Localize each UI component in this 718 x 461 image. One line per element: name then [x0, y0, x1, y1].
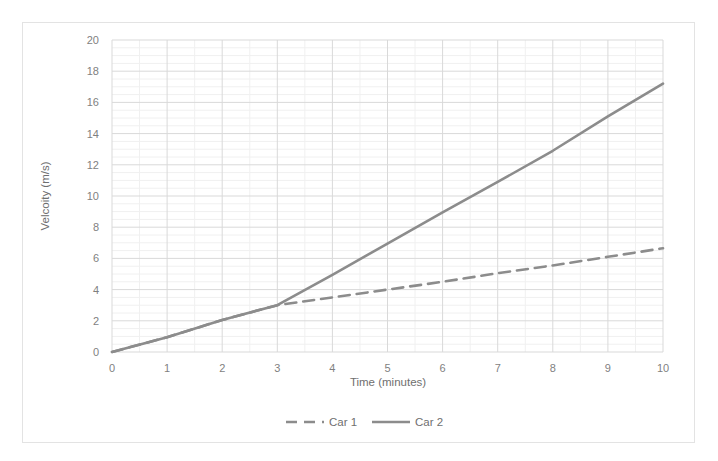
y-tick-label-0: 0 — [93, 346, 99, 358]
line-chart: 02468101214161820 012345678910 Velcoity … — [0, 0, 718, 461]
x-tick-label-5: 5 — [384, 362, 390, 374]
y-tick-label-2: 4 — [93, 284, 99, 296]
x-tick-label-4: 4 — [329, 362, 335, 374]
y-tick-label-4: 8 — [93, 221, 99, 233]
x-tick-label-3: 3 — [274, 362, 280, 374]
legend-label-car-2[interactable]: Car 2 — [415, 416, 443, 428]
x-tick-label-1: 1 — [164, 362, 170, 374]
y-tick-label-8: 16 — [87, 96, 99, 108]
y-tick-label-6: 12 — [87, 159, 99, 171]
x-tick-label-8: 8 — [550, 362, 556, 374]
x-tick-label-7: 7 — [495, 362, 501, 374]
y-tick-label-3: 6 — [93, 252, 99, 264]
y-axis-tick-labels: 02468101214161820 — [87, 34, 99, 358]
x-tick-label-0: 0 — [109, 362, 115, 374]
y-tick-label-5: 10 — [87, 190, 99, 202]
chart-legend: Car 1Car 2 — [286, 416, 443, 428]
legend-label-car-1[interactable]: Car 1 — [329, 416, 357, 428]
y-tick-label-1: 2 — [93, 315, 99, 327]
x-tick-label-6: 6 — [440, 362, 446, 374]
x-axis-tick-labels: 012345678910 — [109, 362, 669, 374]
y-tick-label-7: 14 — [87, 128, 99, 140]
chart-figure: 02468101214161820 012345678910 Velcoity … — [0, 0, 718, 461]
x-tick-label-9: 9 — [605, 362, 611, 374]
x-tick-label-10: 10 — [657, 362, 669, 374]
y-tick-label-10: 20 — [87, 34, 99, 46]
x-axis-title: Time (minutes) — [350, 376, 426, 388]
y-axis-title: Velcoity (m/s) — [39, 161, 51, 230]
y-tick-label-9: 18 — [87, 65, 99, 77]
x-tick-label-2: 2 — [219, 362, 225, 374]
